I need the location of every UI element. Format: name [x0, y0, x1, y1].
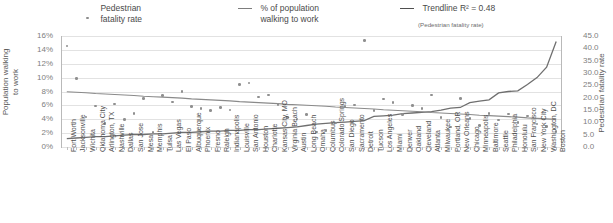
x-axis-label: Charlotte [271, 124, 278, 152]
x-axis-label: Atlanta [434, 130, 441, 152]
x-axis-label: Baltimore [492, 122, 499, 152]
scatter-point [181, 90, 184, 93]
x-axis-label: Jacksonville [79, 114, 86, 152]
x-axis-label: Fort Worth [70, 119, 77, 152]
x-tick [326, 147, 327, 150]
chart-container: Pedestrian fatality rate % of population… [0, 0, 613, 223]
scatter-point [411, 104, 414, 107]
x-axis-label: Virginia Beach [291, 107, 298, 152]
legend-label-trendline: Trendline R² = 0.48 [422, 3, 495, 14]
x-axis-label: Minneapolis [482, 115, 489, 152]
x-axis-label: Los Angeles [386, 114, 393, 152]
x-axis-label: Detroit [367, 131, 374, 152]
x-axis-label: Sacramento [358, 114, 365, 152]
x-axis-label: Austin [300, 133, 307, 152]
x-axis-label: San Francisco [530, 107, 537, 152]
scatter-point [171, 101, 174, 104]
scatter-point [75, 77, 78, 80]
x-axis-label: Long Beach [310, 115, 317, 152]
x-axis-label: Tulsa [166, 135, 173, 152]
scatter-point [459, 97, 462, 100]
y-tick-left-6: 4% [27, 114, 53, 124]
legend-label-walking: % of population walking to work [260, 3, 319, 24]
y-tick-left-3: 10% [27, 73, 53, 83]
x-axis-label: Cleveland [425, 121, 432, 152]
scatter-point [277, 103, 280, 106]
scatter-point [526, 115, 529, 118]
scatter-point [305, 113, 308, 116]
x-axis-label: Seattle [502, 130, 509, 152]
y-tick-right-6: 15.0 [583, 105, 613, 115]
x-axis-label: Colorado Springs [338, 98, 345, 152]
scatter-point [94, 105, 97, 108]
x-axis-label: Louisville [243, 123, 250, 152]
legend-sublabel-trendline: (Pedestrian fatality rate) [418, 21, 495, 29]
x-axis-label: New Orleans [463, 112, 470, 152]
y-tick-right-5: 20.0 [583, 93, 613, 103]
y-axis-left-title: Population walking to work [1, 45, 21, 119]
x-axis-label: San Jose [137, 123, 144, 152]
y-tick-left-0: 16% [27, 31, 53, 41]
x-axis-label: Mesa [147, 135, 154, 152]
y-tick-right-7: 10.0 [583, 117, 613, 127]
scatter-point [507, 113, 510, 116]
x-axis-label: Raleigh [223, 128, 230, 152]
x-tick [441, 147, 442, 150]
x-axis-label: Oakland [415, 126, 422, 152]
scatter-point [123, 118, 126, 121]
x-axis-label: Las Vegas [175, 119, 182, 152]
x-axis-label: San Diego [348, 119, 355, 152]
y-tick-left-5: 6% [27, 100, 53, 110]
x-axis-label: Philadelphia [511, 114, 518, 152]
scatter-point [209, 109, 212, 112]
x-axis-label: Phoenix [204, 127, 211, 152]
x-axis-label: Columbus [329, 120, 336, 152]
y-tick-left-8: 0% [27, 142, 53, 152]
x-axis-label: San Antonio [252, 114, 259, 152]
x-axis-label: Portland, OR [454, 112, 461, 152]
scatter-point [219, 106, 222, 109]
x-axis-label: Wichita [89, 129, 96, 152]
scatter-point [142, 97, 145, 100]
x-tick [86, 147, 87, 150]
x-axis-label: Houston [262, 126, 269, 152]
y-tick-right-4: 25.0 [583, 80, 613, 90]
scatter-point [353, 104, 356, 107]
y-tick-right-1: 40.0 [583, 43, 613, 53]
x-axis-label: Washington, DC [550, 101, 557, 152]
legend-item-trendline: Trendline R² = 0.48 (Pedestrian fatality… [400, 3, 495, 29]
scatter-point [238, 83, 241, 86]
x-axis-label: New York City [540, 108, 547, 152]
x-axis-label: Honolulu [521, 124, 528, 152]
x-axis-label: Memphis [156, 124, 163, 152]
scatter-marker-icon [82, 3, 93, 21]
x-tick [230, 147, 231, 150]
x-axis-label: Kansas City, MO [281, 100, 288, 152]
x-axis-label: Omaha [319, 129, 326, 152]
scatter-point [421, 107, 424, 110]
x-axis-label: Boston [559, 130, 566, 152]
y-tick-right-9: 0.0 [583, 142, 613, 152]
y-tick-right-8: 5.0 [583, 130, 613, 140]
x-axis-label: Milwaukee [444, 119, 451, 152]
x-axis-label: Tucson [377, 129, 384, 152]
x-tick [67, 147, 68, 150]
x-axis-label: Indianapolis [233, 115, 240, 152]
x-axis-label: El Paso [185, 128, 192, 152]
scatter-point [113, 103, 116, 106]
x-tick [489, 147, 490, 150]
x-axis-label: Nashville [118, 124, 125, 152]
x-tick [537, 147, 538, 150]
x-tick [345, 147, 346, 150]
x-tick [393, 147, 394, 150]
x-tick [134, 147, 135, 150]
legend-item-pedestrian-fatality-rate: Pedestrian fatality rate [82, 3, 142, 24]
y-tick-left-7: 2% [27, 128, 53, 138]
y-tick-left-4: 8% [27, 87, 53, 97]
x-axis-label: Dallas [127, 133, 134, 152]
scatter-point [497, 119, 500, 122]
x-axis-label: Oklahoma City [99, 106, 106, 152]
y-tick-left-2: 12% [27, 59, 53, 69]
x-tick [374, 147, 375, 150]
x-axis-label: Fresno [214, 130, 221, 152]
